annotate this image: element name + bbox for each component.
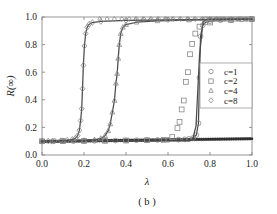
figure-caption: ( b ) bbox=[138, 196, 156, 208]
data-marker-square bbox=[193, 31, 198, 36]
x-tick-label: 0.4 bbox=[120, 159, 132, 169]
x-tick-label: 0.0 bbox=[36, 159, 48, 169]
data-marker-square bbox=[183, 79, 188, 84]
y-tick-label: 0.8 bbox=[25, 40, 37, 50]
legend-label: c=2 bbox=[224, 76, 238, 86]
legend-label: c=4 bbox=[224, 86, 238, 96]
x-tick-label: 1.0 bbox=[246, 159, 258, 169]
data-marker-square bbox=[181, 98, 186, 103]
legend: c=1c=2c=4c=8 bbox=[200, 63, 252, 108]
data-marker-square bbox=[190, 42, 195, 47]
x-tick-label: 0.8 bbox=[204, 159, 216, 169]
y-tick-label: 0.0 bbox=[25, 150, 37, 160]
y-tick-label: 1.0 bbox=[25, 12, 37, 22]
data-marker-square bbox=[177, 119, 182, 124]
data-marker-square bbox=[179, 107, 184, 112]
y-tick-label: 0.2 bbox=[25, 123, 37, 133]
y-tick-label: 0.4 bbox=[25, 95, 37, 105]
data-marker-square bbox=[175, 126, 180, 131]
legend-label: c=8 bbox=[224, 96, 238, 106]
y-axis-label: R(∞) bbox=[5, 75, 17, 97]
x-tick-label: 0.6 bbox=[162, 159, 174, 169]
legend-label: c=1 bbox=[224, 67, 238, 77]
x-axis-label: λ bbox=[144, 176, 150, 187]
x-tick-label: 0.2 bbox=[78, 159, 90, 169]
data-marker-square bbox=[188, 52, 193, 57]
chart-canvas: 0.00.20.40.60.81.00.00.20.40.60.81.0λR(∞… bbox=[0, 0, 277, 214]
svg-text:R(∞): R(∞) bbox=[5, 75, 17, 97]
figure-panel-b: 0.00.20.40.60.81.00.00.20.40.60.81.0λR(∞… bbox=[0, 0, 277, 214]
y-tick-label: 0.6 bbox=[25, 68, 37, 78]
data-marker-square bbox=[186, 70, 191, 75]
